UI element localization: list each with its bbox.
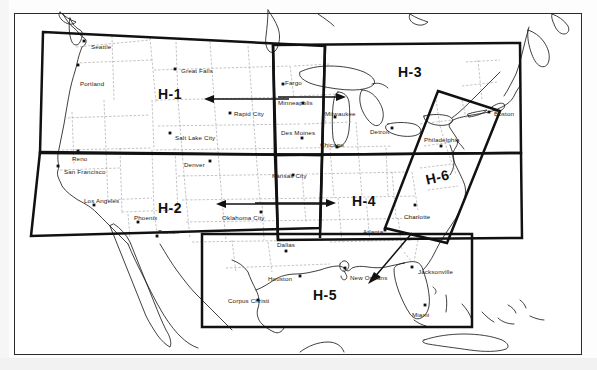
mississippi-delta-outline [340,261,349,271]
city-label: Phoenix [134,214,157,221]
lake-michigan-outline [332,92,350,147]
city-label: Salt Lake City [175,134,215,141]
city-label: Des Moines [281,129,315,136]
vancouver-island-outline [59,12,76,24]
small-island-bar [446,295,447,312]
city-label: Miami [412,311,429,318]
bahamas-island-5 [520,300,526,308]
region-label-h-5: H-5 [313,287,337,303]
geography-layer [0,0,597,370]
canada-north-outline [318,14,334,26]
city-label: Kansas City [272,172,307,179]
city-dot [301,137,304,140]
city-label: Philadelphia [424,136,460,143]
city-label: Tucson [158,228,179,235]
gulf-of-california-outline [128,244,198,348]
yucatan-outline [300,342,344,352]
bahamas-island-4 [508,305,516,313]
city-label: Charlotte [404,213,430,220]
city-dot [299,275,302,278]
city-label: Atlanta [363,228,383,235]
city-dot [414,204,417,207]
city-dot [57,165,60,168]
city-dot [282,83,285,86]
city-dot [174,68,177,71]
arrow-annotations [204,93,412,284]
arrow-into-h1-head [204,95,214,103]
region-box-h5[interactable] [202,234,472,327]
maine-coast-outline [504,27,529,96]
region-label-h-1: H-1 [158,86,182,102]
city-dot [93,204,96,207]
region-label-h-2: H-2 [158,200,182,216]
city-label: Houston [268,275,292,282]
city-label: New Orleans [350,274,387,281]
lake-huron-outline [360,90,383,126]
lake-superior-outline [300,66,375,90]
city-label: Minneapolis [278,99,313,106]
city-dot [156,235,159,238]
bahamas-island-6 [530,316,544,320]
city-dot [344,267,347,270]
region-label-h-4: H-4 [352,193,376,209]
city-label: Detroit [370,128,389,135]
map-screenshot: H-1H-2H-3H-4H-5H-6 SeattlePortlandGreat … [0,0,597,370]
city-label: Dallas [277,241,295,248]
city-dot [488,111,491,114]
city-dot [424,304,427,307]
city-label: Milwaukee [325,110,356,117]
city-label: San Francisco [64,168,106,175]
city-label: Chicago [320,141,344,148]
city-label: Corpus Christi [228,297,269,304]
city-dot [411,266,414,269]
delta-detail [341,271,347,280]
nova-scotia-outline [528,30,550,67]
city-label: Reno [72,155,87,162]
city-label: Fargo [285,79,302,86]
bahamas-island-2 [482,312,494,322]
city-label: Boston [494,110,514,117]
city-dot [83,40,86,43]
city-label: Oklahoma City [222,214,265,221]
city-label: Great Falls [181,67,213,74]
arrow-into-h2-head [216,200,226,208]
city-dot [137,221,140,224]
region-label-h-3: H-3 [398,64,422,80]
baja-peninsula-outline [110,224,171,347]
small-island-dot-a [433,287,436,294]
cuba-outline [423,334,508,351]
city-label: Portland [80,80,104,87]
florida-keys-outline [414,320,426,326]
city-label: Seattle [91,43,111,50]
city-dot [285,250,288,253]
city-label: Rapid City [234,110,264,117]
city-label: Jacksonville [418,268,453,275]
long-island-outline [468,110,487,117]
arrow-into-h4-head [326,199,336,207]
bahamas-island-1 [462,304,472,320]
newfoundland-outline [552,14,569,34]
canada-lake-outline [409,14,428,25]
city-dot [260,211,263,214]
city-dot [169,132,172,135]
mexico-west-coast-outline [160,244,232,330]
city-label: Denver [184,161,205,168]
city-dot [209,160,212,163]
city-dot [77,64,80,67]
city-label: Los Angeles [84,197,119,204]
city-dot [440,145,443,148]
bahamas-island-3 [498,318,514,324]
city-dot [229,112,232,115]
city-dot [391,127,394,130]
lake-erie-outline [386,123,421,137]
